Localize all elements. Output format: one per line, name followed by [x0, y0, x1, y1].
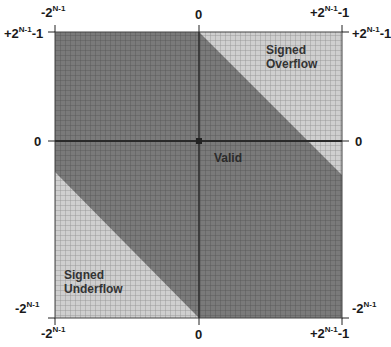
- overflow-diagram: [0, 0, 391, 347]
- origin-marker: [196, 138, 202, 144]
- bottom-right-tick-label: +2N-1-1: [310, 327, 349, 340]
- bottom-center-tick-label: 0: [195, 328, 202, 341]
- underflow-label: Signed Underflow: [64, 268, 123, 296]
- underflow-label-line2: Underflow: [64, 282, 123, 296]
- left-center-tick-label: 0: [34, 135, 41, 148]
- right-center-tick-label: 0: [355, 135, 362, 148]
- underflow-label-line1: Signed: [64, 268, 123, 282]
- top-center-tick-label: 0: [195, 8, 202, 21]
- overflow-label-line2: Overflow: [266, 57, 317, 71]
- top-left-tick-label: -2N-1: [41, 6, 65, 19]
- right-top-tick-label: +2N-1-1: [352, 27, 391, 40]
- left-top-tick-label: +2N-1-1: [4, 27, 43, 40]
- overflow-label-line1: Signed: [266, 43, 317, 57]
- left-bottom-tick-label: -2N-1: [15, 302, 39, 315]
- top-right-tick-label: +2N-1-1: [310, 6, 349, 19]
- valid-label: Valid: [214, 151, 242, 165]
- overflow-label: Signed Overflow: [266, 43, 317, 71]
- bottom-left-tick-label: -2N-1: [41, 327, 65, 340]
- right-bottom-tick-label: -2N-1: [352, 302, 376, 315]
